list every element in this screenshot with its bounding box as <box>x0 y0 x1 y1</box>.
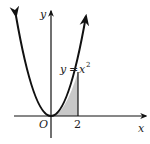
y-axis-label: y <box>39 8 47 21</box>
equation-equals: = <box>69 63 78 76</box>
shaded-area <box>51 72 78 116</box>
equation-lhs: y <box>59 63 67 76</box>
equation-exponent: 2 <box>86 61 90 69</box>
origin-label: O <box>39 118 48 131</box>
x-tick-2-label: 2 <box>74 118 81 131</box>
parabola-diagram: y x O 2 y = x 2 <box>0 0 150 144</box>
curve-equation-label: y = x 2 <box>59 61 90 76</box>
equation-base: x <box>79 63 86 76</box>
x-axis-label: x <box>138 122 145 135</box>
